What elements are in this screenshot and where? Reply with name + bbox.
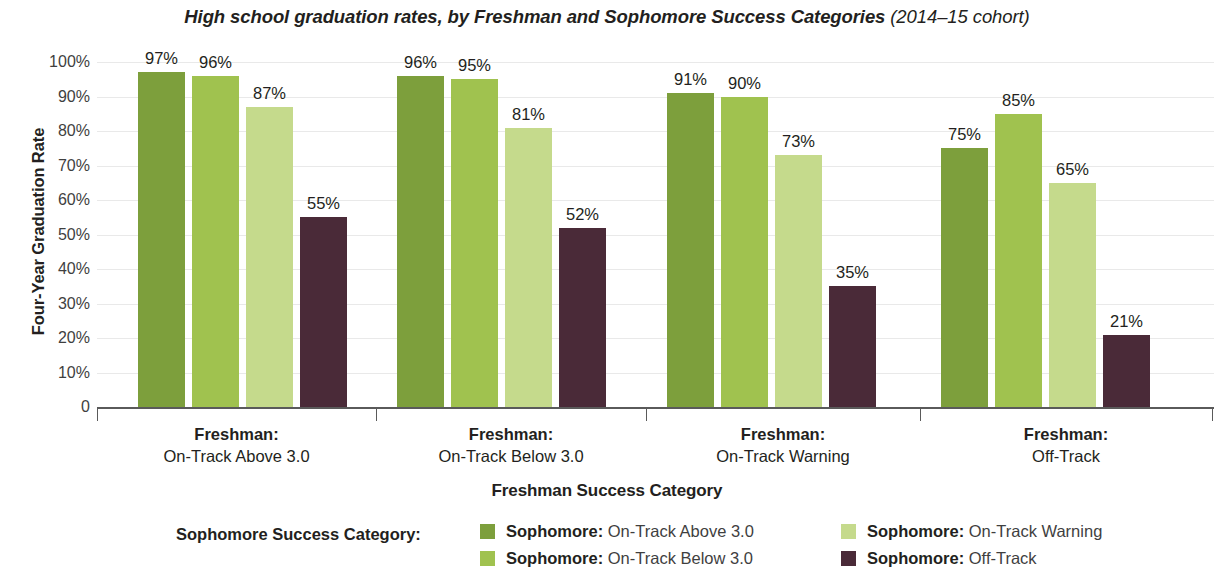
- group-bracket-tick: [97, 407, 98, 421]
- legend-item-label: Sophomore: On-Track Warning: [867, 523, 1102, 540]
- legend-item[interactable]: Sophomore: Off-Track: [841, 550, 1037, 567]
- legend-item-label: Sophomore: On-Track Below 3.0: [506, 550, 753, 567]
- bar-value-label: 52%: [549, 206, 616, 223]
- y-axis-tick-label: 20%: [20, 330, 90, 346]
- bar[interactable]: [1049, 183, 1096, 407]
- bar[interactable]: [721, 97, 768, 408]
- y-axis-tick-label: 10%: [20, 365, 90, 381]
- group-label-subtitle: On-Track Below 3.0: [376, 446, 646, 468]
- y-axis-tick-label: 30%: [20, 296, 90, 312]
- bar[interactable]: [397, 76, 444, 407]
- y-axis-tick-label: 0: [20, 399, 90, 415]
- y-axis-tick-label: 90%: [20, 89, 90, 105]
- bar[interactable]: [505, 128, 552, 407]
- legend-color-swatch: [841, 524, 856, 539]
- y-axis-tick-label: 50%: [20, 227, 90, 243]
- y-axis-tick-label: 60%: [20, 192, 90, 208]
- legend-color-swatch: [480, 524, 495, 539]
- bar-value-label: 95%: [441, 57, 508, 74]
- bar-value-label: 75%: [931, 126, 998, 143]
- group-bracket-tick: [1212, 407, 1213, 421]
- bar[interactable]: [775, 155, 822, 407]
- group-label-subtitle: Off-Track: [920, 446, 1212, 468]
- group-label-title: Freshman:: [920, 424, 1212, 446]
- group-label-title: Freshman:: [376, 424, 646, 446]
- bar[interactable]: [192, 76, 239, 407]
- group-bracket-tick: [920, 407, 921, 421]
- bar[interactable]: [138, 72, 185, 407]
- bar-value-label: 73%: [765, 133, 832, 150]
- bar[interactable]: [829, 286, 876, 407]
- group-label: Freshman:Off-Track: [920, 424, 1212, 468]
- bar-value-label: 85%: [985, 92, 1052, 109]
- group-label-subtitle: On-Track Warning: [646, 446, 920, 468]
- bar[interactable]: [246, 107, 293, 407]
- group-label: Freshman:On-Track Below 3.0: [376, 424, 646, 468]
- bar-value-label: 90%: [711, 75, 778, 92]
- gridline: [97, 62, 1214, 63]
- legend-item[interactable]: Sophomore: On-Track Below 3.0: [480, 550, 753, 567]
- plot-area: 100%90%80%70%60%50%40%30%20%10%097%96%87…: [97, 62, 1214, 407]
- group-label-title: Freshman:: [97, 424, 376, 446]
- group-label-title: Freshman:: [646, 424, 920, 446]
- bar-value-label: 65%: [1039, 161, 1106, 178]
- bar-value-label: 21%: [1093, 313, 1160, 330]
- bar-value-label: 81%: [495, 106, 562, 123]
- group-bracket-tick: [646, 407, 647, 421]
- bar-value-label: 87%: [236, 85, 303, 102]
- legend-item-label: Sophomore: On-Track Above 3.0: [506, 523, 754, 540]
- legend-title: Sophomore Success Category:: [176, 525, 421, 544]
- y-axis-tick-label: 100%: [20, 54, 90, 70]
- legend-item[interactable]: Sophomore: On-Track Above 3.0: [480, 523, 754, 540]
- chart-title-main: High school graduation rates, by Freshma…: [184, 6, 885, 27]
- legend-color-swatch: [841, 551, 856, 566]
- chart-title-cohort: (2014–15 cohort): [890, 6, 1029, 27]
- bar[interactable]: [941, 148, 988, 407]
- y-axis-tick-label: 40%: [20, 261, 90, 277]
- legend-color-swatch: [480, 551, 495, 566]
- bar[interactable]: [300, 217, 347, 407]
- y-axis-tick-label: 80%: [20, 123, 90, 139]
- page-title: High school graduation rates, by Freshma…: [0, 6, 1214, 28]
- bar-value-label: 96%: [182, 54, 249, 71]
- x-axis-title: Freshman Success Category: [0, 481, 1214, 501]
- group-label: Freshman:On-Track Warning: [646, 424, 920, 468]
- legend-item[interactable]: Sophomore: On-Track Warning: [841, 523, 1102, 540]
- bar[interactable]: [667, 93, 714, 407]
- bar-value-label: 55%: [290, 195, 357, 212]
- bar[interactable]: [451, 79, 498, 407]
- bar[interactable]: [559, 228, 606, 407]
- bar[interactable]: [1103, 335, 1150, 407]
- legend: Sophomore Success Category: Sophomore: O…: [0, 519, 1214, 573]
- group-label-subtitle: On-Track Above 3.0: [97, 446, 376, 468]
- group-bracket-tick: [376, 407, 377, 421]
- bar[interactable]: [995, 114, 1042, 407]
- y-axis-tick-label: 70%: [20, 158, 90, 174]
- x-axis-baseline: [97, 407, 1214, 409]
- legend-item-label: Sophomore: Off-Track: [867, 550, 1037, 567]
- bar-value-label: 35%: [819, 264, 886, 281]
- group-label: Freshman:On-Track Above 3.0: [97, 424, 376, 468]
